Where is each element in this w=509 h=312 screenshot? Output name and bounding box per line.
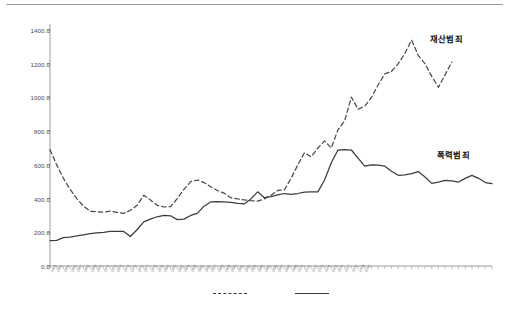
chart-legend (0, 293, 509, 307)
x-tick-label: 2003 (317, 264, 324, 273)
x-tick-label: 1983 (183, 264, 190, 273)
x-tick-label: 1971 (103, 264, 110, 273)
x-tick-label: 1981 (170, 264, 177, 273)
x-tick-label: 1975 (130, 264, 137, 273)
chart-figure: 0.0200.0400.0600.0800.01000.01200.01400.… (0, 0, 509, 312)
legend-swatch-dashed-icon (213, 293, 247, 294)
x-tick-label: 1968 (83, 264, 90, 273)
x-tick-label: 1993 (250, 264, 257, 273)
x-tick-label: 1995 (264, 264, 271, 273)
x-tick-label: 1963 (50, 264, 57, 273)
x-tick-label: 1998 (284, 264, 291, 273)
x-tick-label: 1973 (116, 264, 123, 273)
x-tick-label: 1976 (137, 264, 144, 273)
series-label-violent-crime: 폭력범죄 (437, 148, 470, 160)
x-tick-label: 1996 (271, 264, 278, 273)
x-tick-label: 2007 (344, 264, 351, 273)
legend-swatch-solid-icon (295, 293, 329, 294)
x-tick-label: 1974 (123, 264, 130, 273)
x-tick-label: 2001 (304, 264, 311, 273)
x-tick-label: 1985 (197, 264, 204, 273)
x-tick-label: 1969 (90, 264, 97, 273)
x-tick-label: 1978 (150, 264, 157, 273)
x-tick-label: 2002 (311, 264, 318, 273)
x-tick-label: 1991 (237, 264, 244, 273)
x-tick-label: 2008 (351, 264, 358, 273)
x-tick-label: 2009 (358, 264, 365, 273)
legend-item-property-crime[interactable] (213, 293, 247, 294)
x-tick-label: 2006 (337, 264, 344, 273)
x-tick-label: 1986 (204, 264, 211, 273)
x-tick-label: 2004 (324, 264, 331, 273)
x-tick-label: 1965 (63, 264, 70, 273)
x-tick-label: 1979 (157, 264, 164, 273)
x-axis-tick-labels: 1963196419651966196719681969197019711972… (0, 0, 509, 312)
x-tick-label: 1984 (190, 264, 197, 273)
x-tick-label: 1999 (291, 264, 298, 273)
x-tick-label: 1994 (257, 264, 264, 273)
x-tick-label: 1970 (96, 264, 103, 273)
series-label-property-crime: 재산범죄 (430, 32, 463, 44)
x-tick-label: 1988 (217, 264, 224, 273)
legend-item-violent-crime[interactable] (295, 293, 329, 294)
x-tick-label: 1989 (224, 264, 231, 273)
x-tick-label: 1966 (70, 264, 77, 273)
